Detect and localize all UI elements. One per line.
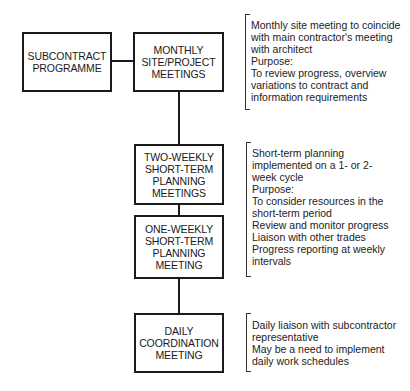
- subcontract-programme-label: SUBCONTRACT PROGRAMME: [28, 50, 107, 74]
- monthly-meetings-label: MONTHLY SITE/PROJECT MEETINGS: [141, 44, 215, 80]
- daily-note-text: Daily liaison with subcontractor represe…: [252, 319, 410, 367]
- daily-coordination-label: DAILY COORDINATION MEETING: [139, 325, 219, 361]
- daily-coordination-box: DAILY COORDINATION MEETING: [134, 313, 224, 373]
- monthly-meetings-box: MONTHLY SITE/PROJECT MEETINGS: [133, 32, 224, 92]
- connector-two-weekly-one-weekly: [178, 204, 180, 215]
- connector-subcontract-monthly: [111, 60, 133, 62]
- two-weekly-meetings-label: TWO-WEEKLY SHORT-TERM PLANNING MEETINGS: [144, 151, 214, 199]
- one-weekly-meeting-box: ONE-WEEKLY SHORT-TERM PLANNING MEETING: [134, 215, 224, 279]
- connector-monthly-two-weekly: [178, 91, 180, 144]
- short-term-note-bracket: Short-term planning implemented on a 1- …: [246, 142, 410, 277]
- subcontract-programme-box: SUBCONTRACT PROGRAMME: [22, 32, 112, 92]
- monthly-note-bracket: Monthly site meeting to coincide with ma…: [245, 14, 410, 110]
- monthly-note-text: Monthly site meeting to coincide with ma…: [251, 19, 410, 103]
- two-weekly-meetings-box: TWO-WEEKLY SHORT-TERM PLANNING MEETINGS: [134, 144, 224, 205]
- short-term-note-text: Short-term planning implemented on a 1- …: [252, 147, 410, 267]
- daily-note-bracket: Daily liaison with subcontractor represe…: [246, 313, 410, 372]
- one-weekly-meeting-label: ONE-WEEKLY SHORT-TERM PLANNING MEETING: [145, 223, 213, 271]
- connector-one-weekly-daily: [178, 278, 180, 313]
